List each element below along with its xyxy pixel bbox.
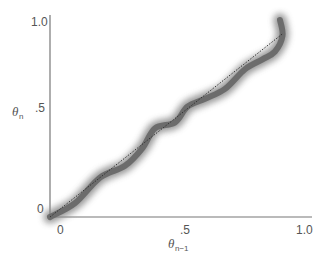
y-axis-label-sub: n	[19, 112, 23, 121]
x-tick-1: 1.0	[296, 223, 313, 237]
x-axis-label-sub: n−1	[175, 244, 189, 253]
x-axis-label: θ	[168, 236, 175, 251]
x-tick-05: .5	[180, 223, 190, 237]
y-axis-label: θ	[12, 104, 19, 119]
chart: 1.0 .5 0 θ n 0 .5 1.0 θ n−1	[0, 0, 323, 261]
return-map-curve	[50, 20, 283, 217]
y-tick-1: 1.0	[31, 15, 48, 29]
x-tick-0: 0	[57, 223, 64, 237]
y-tick-0: 0	[37, 202, 44, 216]
y-tick-05: .5	[35, 101, 45, 115]
